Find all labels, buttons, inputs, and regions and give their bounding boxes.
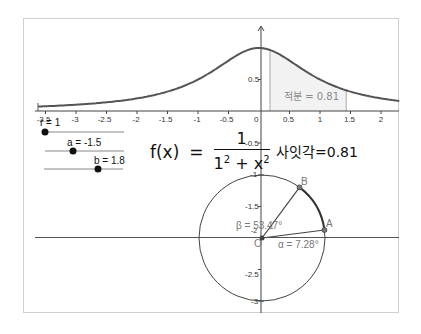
x-tick-label: 1.5 bbox=[344, 115, 355, 124]
beta-angle-label: β = 53.47° bbox=[236, 220, 282, 231]
formula-denominator: 12 + x2 bbox=[214, 151, 270, 173]
angle-value-text: 사잇각=0.81 bbox=[276, 141, 358, 161]
denominator-x-exponent: 2 bbox=[263, 154, 269, 165]
fraction-bar bbox=[214, 149, 270, 150]
denominator-base: 1 bbox=[214, 154, 224, 173]
slider-b-label: b = 1.8 bbox=[94, 155, 125, 166]
segment-oa bbox=[262, 230, 324, 238]
slider-r-label: r = 1 bbox=[40, 117, 60, 128]
y-tick-label-neg3: -3 bbox=[251, 297, 258, 306]
x-tick-label: -1 bbox=[194, 115, 201, 124]
integral-label: 적분 = 0.81 bbox=[284, 88, 339, 103]
formula-numerator: 1 bbox=[236, 130, 246, 148]
x-tick-label: -3 bbox=[72, 115, 79, 124]
function-formula: f(x) = 1 12 + x2 bbox=[150, 130, 270, 173]
x-tick-label: -2 bbox=[133, 115, 140, 124]
x-tick-label: -1.5 bbox=[159, 115, 173, 124]
formula-fraction: 1 12 + x2 bbox=[214, 130, 270, 173]
x-tick-label: 1 bbox=[318, 115, 322, 124]
y-tick-label-neg15: -1.5 bbox=[245, 202, 259, 211]
x-tick-label: -2.5 bbox=[98, 115, 112, 124]
denominator-plus-x: + x bbox=[230, 154, 263, 173]
point-b-label: B bbox=[301, 176, 308, 187]
slider-b-handle[interactable] bbox=[95, 166, 102, 173]
y-tick-label-05: 0.5 bbox=[248, 75, 259, 84]
point-a-label: A bbox=[326, 218, 333, 229]
x-tick-label: -0.5 bbox=[220, 115, 234, 124]
slider-a-label: a = -1.5 bbox=[67, 137, 101, 148]
x-tick-label: 0 bbox=[254, 115, 258, 124]
arc-ab bbox=[300, 187, 325, 230]
point-o-label: O bbox=[254, 238, 262, 249]
formula-equals: = bbox=[189, 142, 203, 162]
geogebra-canvas[interactable]: -3.5-3-2.5-2-1.5-1-0.500.511.52 0.5 -0.5… bbox=[0, 0, 421, 334]
y-tick-label-neg25: -2.5 bbox=[245, 270, 259, 279]
alpha-angle-label: α = 7.28° bbox=[278, 239, 319, 250]
slider-r-handle[interactable] bbox=[42, 129, 49, 136]
slider-a-handle[interactable] bbox=[70, 148, 77, 155]
x-tick-label: 0.5 bbox=[283, 115, 294, 124]
x-tick-label: 2 bbox=[379, 115, 383, 124]
formula-lhs: f(x) bbox=[150, 142, 179, 162]
